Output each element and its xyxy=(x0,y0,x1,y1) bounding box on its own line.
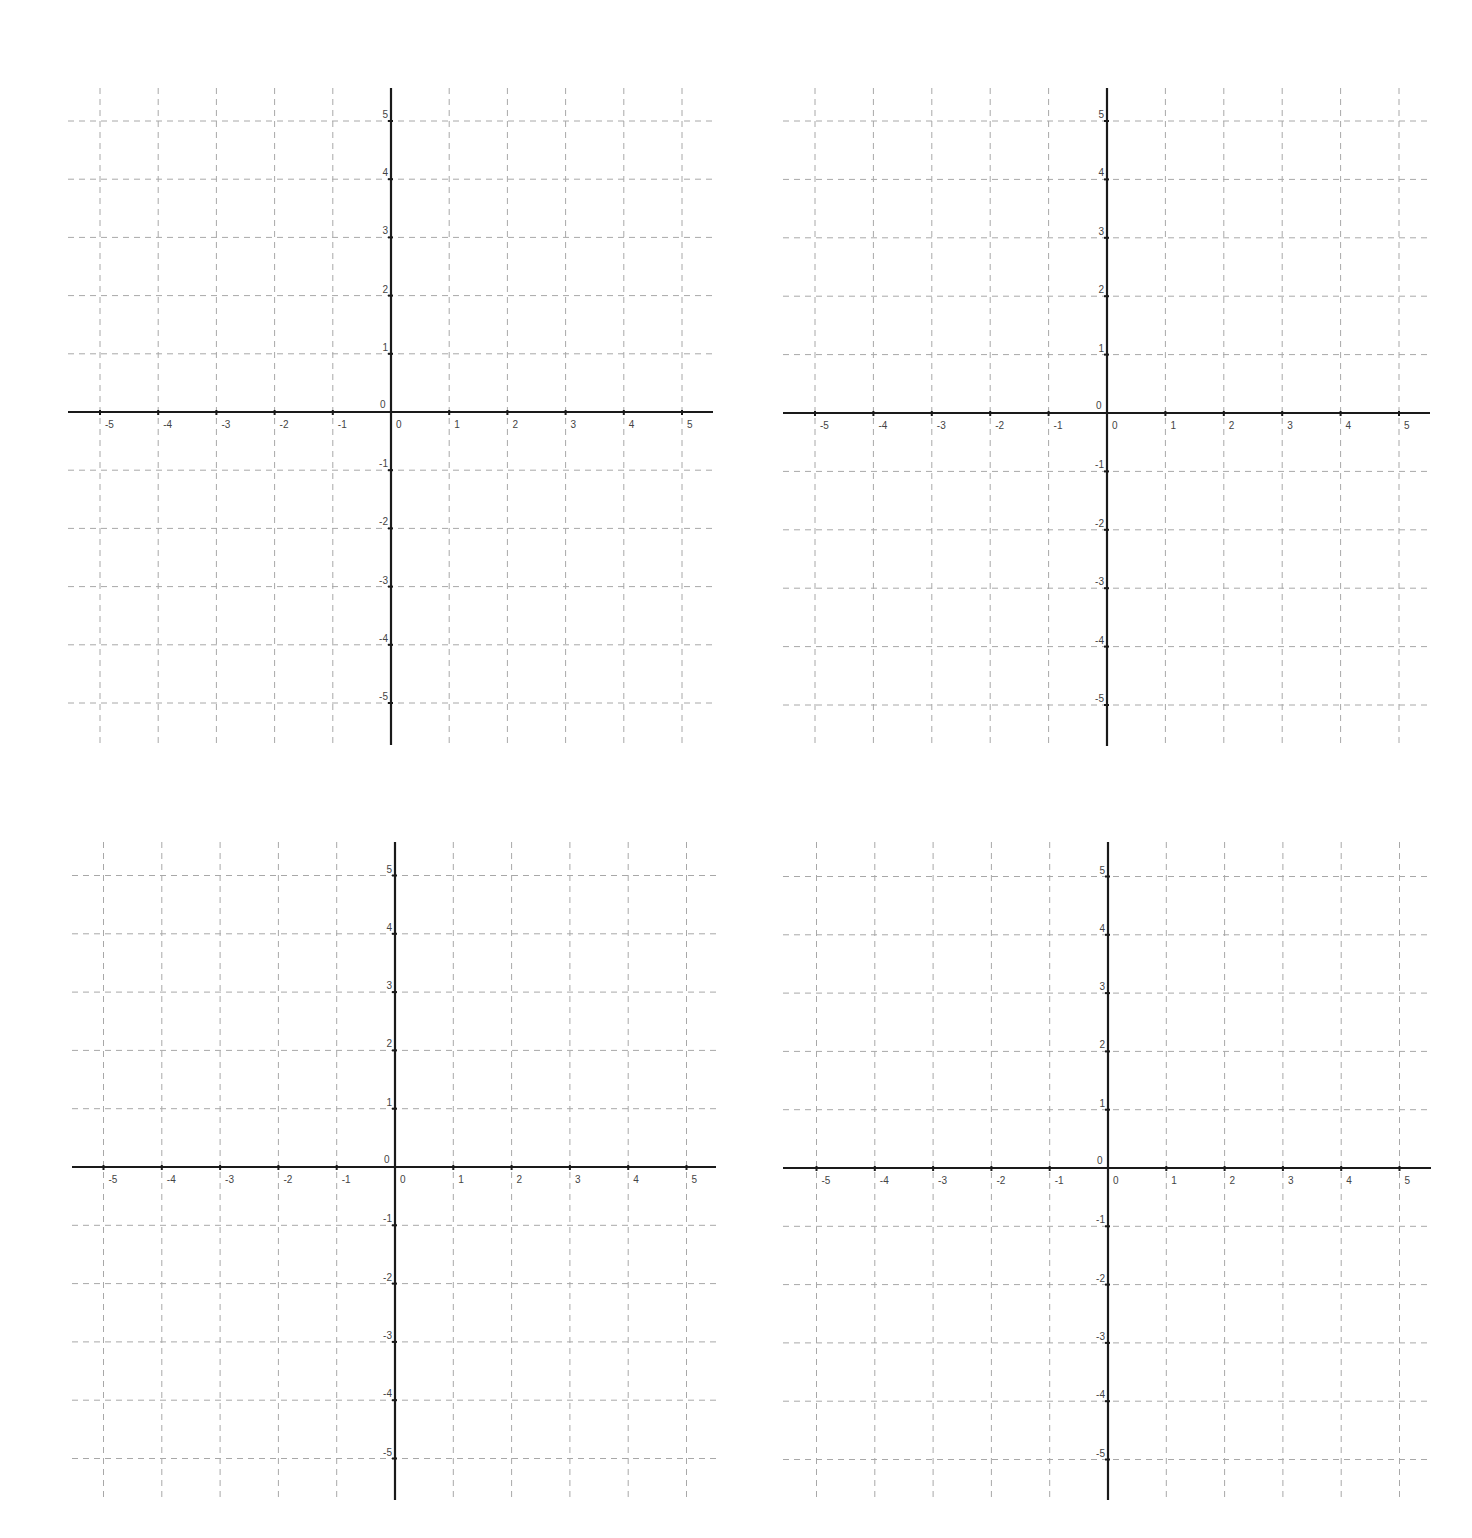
y-tick-label: -2 xyxy=(1095,518,1104,529)
x-tick-label: 0 xyxy=(396,419,402,430)
x-tick-label: -1 xyxy=(1054,420,1063,431)
y-tick-label: 0 xyxy=(1097,1155,1103,1166)
x-tick-label: 3 xyxy=(575,1174,581,1185)
coordinate-plane-3: -5-4-3-2-1012345543210-1-2-3-4-5 xyxy=(72,842,716,1500)
x-tick-label: -1 xyxy=(1055,1175,1064,1186)
y-tick-label: 4 xyxy=(1099,923,1105,934)
y-tick-label: -4 xyxy=(1096,1389,1105,1400)
x-tick-label: 2 xyxy=(1230,1175,1236,1186)
y-tick-label: 2 xyxy=(382,284,388,295)
x-tick-label: 4 xyxy=(633,1174,639,1185)
y-tick-label: 0 xyxy=(380,399,386,410)
y-tick-label: 2 xyxy=(1098,284,1104,295)
y-tick-label: 5 xyxy=(1099,865,1105,876)
y-tick-label: 3 xyxy=(1099,981,1105,992)
x-tick-label: -3 xyxy=(221,419,230,430)
x-tick-label: 0 xyxy=(1113,1175,1119,1186)
x-tick-label: -2 xyxy=(995,420,1004,431)
y-tick-label: -3 xyxy=(1095,576,1104,587)
x-tick-label: -1 xyxy=(338,419,347,430)
y-tick-label: -2 xyxy=(1096,1273,1105,1284)
x-tick-label: -4 xyxy=(880,1175,889,1186)
x-tick-label: -4 xyxy=(878,420,887,431)
x-tick-label: 5 xyxy=(1405,1175,1411,1186)
x-tick-label: 5 xyxy=(687,419,693,430)
x-tick-label: -5 xyxy=(109,1174,118,1185)
x-tick-label: 0 xyxy=(400,1174,406,1185)
y-tick-label: -3 xyxy=(379,575,388,586)
x-tick-label: 3 xyxy=(1288,1175,1294,1186)
x-tick-label: -3 xyxy=(938,1175,947,1186)
coordinate-plane-1: -5-4-3-2-1012345543210-1-2-3-4-5 xyxy=(68,88,713,745)
x-tick-label: 2 xyxy=(512,419,518,430)
x-tick-label: -1 xyxy=(342,1174,351,1185)
y-tick-label: 5 xyxy=(1098,109,1104,120)
x-tick-label: 2 xyxy=(517,1174,523,1185)
y-tick-label: -3 xyxy=(1096,1331,1105,1342)
y-tick-label: -1 xyxy=(1096,1214,1105,1225)
y-tick-label: -5 xyxy=(1096,1448,1105,1459)
x-tick-label: 1 xyxy=(1171,1175,1177,1186)
y-tick-label: 5 xyxy=(382,109,388,120)
y-tick-label: 1 xyxy=(386,1097,392,1108)
y-tick-label: -1 xyxy=(379,458,388,469)
y-tick-label: -5 xyxy=(1095,693,1104,704)
y-tick-label: -1 xyxy=(383,1213,392,1224)
y-tick-label: 0 xyxy=(384,1154,390,1165)
y-tick-label: 4 xyxy=(386,922,392,933)
y-tick-label: 2 xyxy=(1099,1039,1105,1050)
y-tick-label: -1 xyxy=(1095,459,1104,470)
x-tick-label: 2 xyxy=(1229,420,1235,431)
coordinate-plane-4: -5-4-3-2-1012345543210-1-2-3-4-5 xyxy=(783,842,1431,1500)
x-tick-label: 0 xyxy=(1112,420,1118,431)
y-tick-label: -4 xyxy=(383,1388,392,1399)
y-tick-label: -2 xyxy=(379,516,388,527)
x-tick-label: 5 xyxy=(692,1174,698,1185)
x-tick-label: 3 xyxy=(571,419,577,430)
x-tick-label: 1 xyxy=(454,419,460,430)
y-tick-label: -3 xyxy=(383,1330,392,1341)
y-tick-label: 1 xyxy=(382,342,388,353)
graph-worksheet: -5-4-3-2-1012345543210-1-2-3-4-5 -5-4-3-… xyxy=(0,0,1472,1538)
x-tick-label: -4 xyxy=(163,419,172,430)
y-tick-label: 3 xyxy=(382,225,388,236)
x-tick-label: -4 xyxy=(167,1174,176,1185)
x-tick-label: 1 xyxy=(1170,420,1176,431)
y-tick-label: 0 xyxy=(1096,400,1102,411)
x-tick-label: 1 xyxy=(458,1174,464,1185)
y-tick-label: 3 xyxy=(1098,226,1104,237)
y-tick-label: 4 xyxy=(382,167,388,178)
x-tick-label: 3 xyxy=(1287,420,1293,431)
y-tick-label: -5 xyxy=(379,691,388,702)
x-tick-label: -5 xyxy=(822,1175,831,1186)
x-tick-label: -3 xyxy=(937,420,946,431)
y-tick-label: 2 xyxy=(386,1038,392,1049)
x-tick-label: 4 xyxy=(1346,420,1352,431)
x-tick-label: -2 xyxy=(283,1174,292,1185)
x-tick-label: -2 xyxy=(280,419,289,430)
y-tick-label: -5 xyxy=(383,1447,392,1458)
y-tick-label: 5 xyxy=(386,864,392,875)
x-tick-label: 4 xyxy=(629,419,635,430)
y-tick-label: -4 xyxy=(1095,635,1104,646)
x-tick-label: -2 xyxy=(996,1175,1005,1186)
y-tick-label: 1 xyxy=(1099,1098,1105,1109)
x-tick-label: -5 xyxy=(105,419,114,430)
y-tick-label: -4 xyxy=(379,633,388,644)
y-tick-label: 4 xyxy=(1098,167,1104,178)
y-tick-label: 1 xyxy=(1098,343,1104,354)
x-tick-label: -3 xyxy=(225,1174,234,1185)
x-tick-label: -5 xyxy=(820,420,829,431)
x-tick-label: 5 xyxy=(1404,420,1410,431)
y-tick-label: 3 xyxy=(386,980,392,991)
x-tick-label: 4 xyxy=(1346,1175,1352,1186)
coordinate-plane-2: -5-4-3-2-1012345543210-1-2-3-4-5 xyxy=(783,88,1430,746)
y-tick-label: -2 xyxy=(383,1272,392,1283)
